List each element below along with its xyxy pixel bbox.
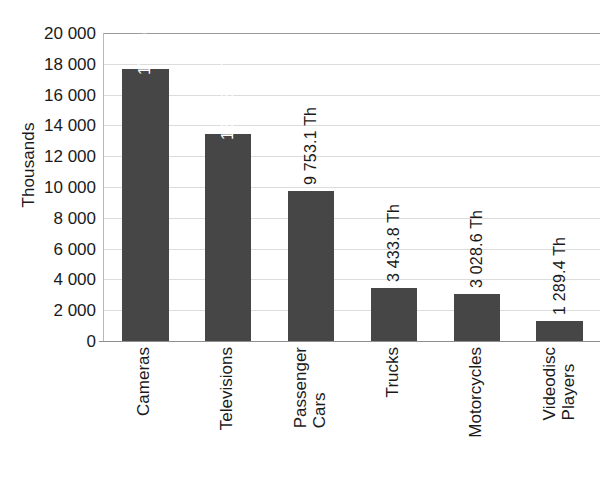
x-axis-category-label-text: Trucks — [383, 347, 402, 397]
bar[interactable] — [371, 288, 417, 341]
x-axis-line — [99, 341, 600, 342]
x-axis-category-label-text: Televisions — [218, 347, 237, 430]
bar-slot: 13 438.0 Th — [187, 33, 270, 341]
y-axis-tick-label: 2 000 — [20, 302, 96, 319]
bar-value-label: 17 656.0 Th — [137, 0, 153, 75]
x-axis-category-label-text: Cameras — [135, 347, 154, 416]
bar-slot: 1 289.4 Th — [518, 33, 601, 341]
bar-slot: 9 753.1 Th — [270, 33, 353, 341]
y-axis-tick-label: 0 — [20, 333, 96, 350]
y-axis-tick-label: 6 000 — [20, 240, 96, 257]
y-axis-tick-label: 18 000 — [20, 55, 96, 72]
x-axis-category-label: VideodiscPlayers — [517, 347, 600, 491]
bar-slot: 17 656.0 Th — [104, 33, 187, 341]
x-axis-category-label-text: PassengerCars — [291, 347, 329, 428]
bar-chart: Thousands 20 00018 00016 00014 00012 000… — [0, 0, 606, 491]
x-axis-category-label-text: Motorcycles — [466, 347, 485, 438]
x-axis-category-label: PassengerCars — [269, 347, 352, 491]
y-axis-tick-label: 4 000 — [20, 271, 96, 288]
x-axis-category-label-line: Cameras — [135, 347, 154, 416]
x-axis-category-label-line: Players — [559, 347, 578, 420]
x-axis-category-label: Trucks — [352, 347, 435, 491]
bar[interactable] — [454, 294, 500, 341]
bar[interactable] — [122, 69, 168, 341]
y-axis-tick-label: 20 000 — [20, 25, 96, 42]
bar-value-label: 9 753.1 Th — [303, 0, 319, 185]
x-axis-category-label-line: Passenger — [291, 347, 310, 428]
y-axis-tick-label: 14 000 — [20, 117, 96, 134]
x-axis-category-label-line: Videodisc — [540, 347, 559, 420]
y-axis-tick-labels: 20 00018 00016 00014 00012 00010 0008 00… — [20, 33, 96, 341]
y-axis-tick-label: 12 000 — [20, 148, 96, 165]
bar-value-label: 13 438.0 Th — [220, 0, 236, 140]
bar[interactable] — [536, 321, 582, 341]
bar-value-label: 3 433.8 Th — [386, 82, 402, 282]
plot-area: 17 656.0 Th13 438.0 Th9 753.1 Th3 433.8 … — [103, 33, 600, 341]
x-axis-category-label-line: Cars — [310, 347, 329, 428]
bar-slot: 3 028.6 Th — [435, 33, 518, 341]
y-axis-tick-label: 16 000 — [20, 86, 96, 103]
x-axis-category-labels: CamerasTelevisionsPassengerCarsTrucksMot… — [103, 347, 600, 491]
x-axis-category-label: Televisions — [186, 347, 269, 491]
bar[interactable] — [205, 134, 251, 341]
x-axis-category-label: Cameras — [103, 347, 186, 491]
x-axis-category-label-text: VideodiscPlayers — [540, 347, 578, 420]
x-axis-category-label-line: Motorcycles — [466, 347, 485, 438]
bar-value-label: 1 289.4 Th — [552, 115, 568, 315]
bar-value-label: 3 028.6 Th — [469, 88, 485, 288]
bar[interactable] — [288, 191, 334, 341]
y-axis-tick-label: 10 000 — [20, 179, 96, 196]
y-axis-tick-label: 8 000 — [20, 209, 96, 226]
x-axis-category-label: Motorcycles — [434, 347, 517, 491]
x-axis-category-label-line: Televisions — [218, 347, 237, 430]
bar-slot: 3 433.8 Th — [353, 33, 436, 341]
x-axis-category-label-line: Trucks — [383, 347, 402, 397]
bar-series: 17 656.0 Th13 438.0 Th9 753.1 Th3 433.8 … — [104, 33, 600, 341]
